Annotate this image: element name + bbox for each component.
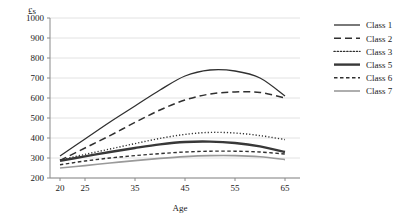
x-tick-label: 55 bbox=[231, 183, 241, 193]
x-tick-label: 25 bbox=[81, 183, 91, 193]
x-tick-label: 35 bbox=[131, 183, 141, 193]
y-axis-tick-labels: 2003004005006007008009001000 bbox=[26, 13, 45, 183]
chart-canvas: 2003004005006007008009001000 20253545556… bbox=[0, 0, 420, 218]
line-chart: 2003004005006007008009001000 20253545556… bbox=[0, 0, 420, 218]
y-axis-label: £s bbox=[28, 6, 37, 16]
y-tick-label: 800 bbox=[31, 53, 45, 63]
series-line-class-2 bbox=[60, 92, 285, 161]
y-tick-label: 900 bbox=[31, 33, 45, 43]
series-line-class-7 bbox=[60, 155, 285, 168]
x-axis-tick-labels: 202535455565 bbox=[56, 183, 291, 193]
x-tick-label: 45 bbox=[181, 183, 191, 193]
x-tick-label: 65 bbox=[281, 183, 291, 193]
gridlines bbox=[50, 18, 300, 178]
legend-label-class-6: Class 6 bbox=[366, 73, 393, 83]
x-axis-label: Age bbox=[173, 203, 188, 213]
legend: Class 1Class 2Class 3Class 5Class 6Class… bbox=[334, 20, 393, 96]
legend-label-class-5: Class 5 bbox=[366, 60, 393, 70]
y-tick-label: 700 bbox=[31, 73, 45, 83]
y-tick-label: 200 bbox=[31, 173, 45, 183]
y-tick-label: 600 bbox=[31, 93, 45, 103]
y-tick-label: 300 bbox=[31, 153, 45, 163]
legend-label-class-2: Class 2 bbox=[366, 34, 392, 44]
data-series bbox=[60, 70, 285, 168]
legend-label-class-3: Class 3 bbox=[366, 47, 393, 57]
y-tick-label: 400 bbox=[31, 133, 45, 143]
x-tick-label: 20 bbox=[56, 183, 66, 193]
legend-label-class-7: Class 7 bbox=[366, 86, 393, 96]
y-tick-label: 500 bbox=[31, 113, 45, 123]
legend-label-class-1: Class 1 bbox=[366, 20, 392, 30]
